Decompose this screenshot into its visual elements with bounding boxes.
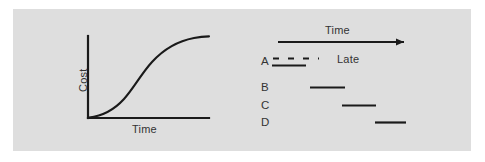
row-label-d: D <box>261 117 270 129</box>
left-chart-axes <box>88 36 209 118</box>
left-chart-y-axis-label: Cost <box>78 69 89 92</box>
row-label-c: C <box>261 100 270 112</box>
time-axis-arrow <box>278 39 404 46</box>
row-label-b: B <box>261 82 269 94</box>
late-label: Late <box>337 54 359 65</box>
right-chart-time-axis-label: Time <box>325 25 350 36</box>
figure-container: Cost Time Time Late A B C D <box>0 0 485 162</box>
figure-vector-layer <box>0 0 485 162</box>
row-label-a: A <box>261 56 269 68</box>
s-curve-path <box>89 36 209 117</box>
left-chart-x-axis-label: Time <box>132 124 157 135</box>
